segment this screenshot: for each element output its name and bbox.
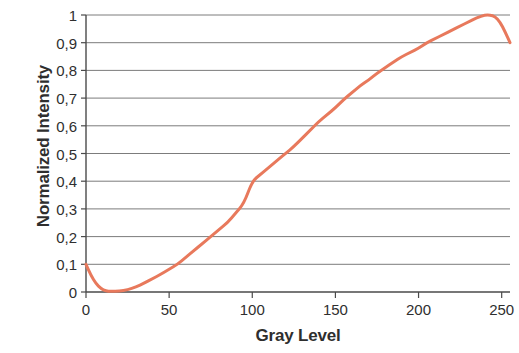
gridlines [86, 15, 510, 264]
x-tick-label: 100 [222, 301, 282, 318]
y-tick-marks [81, 15, 86, 292]
x-tick-marks [86, 292, 502, 298]
plot-svg [86, 15, 510, 292]
x-tick-label: 150 [305, 301, 365, 318]
y-tick-label: 0 [21, 284, 77, 301]
x-tick-label: 0 [56, 301, 116, 318]
x-tick-label: 250 [472, 301, 519, 318]
x-tick-label: 200 [389, 301, 449, 318]
x-tick-label: 50 [139, 301, 199, 318]
plot-area [86, 15, 510, 292]
x-axis-title: Gray Level [86, 326, 510, 346]
y-axis-title: Normalized Intensity [34, 16, 54, 276]
